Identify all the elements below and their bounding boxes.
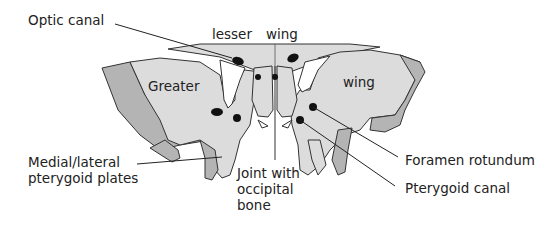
pterygoid-canal-left xyxy=(233,114,241,122)
label-pterygoid-canal: Pterygoid canal xyxy=(405,180,510,196)
label-foramen-rotundum: Foramen rotundum xyxy=(405,152,535,168)
label-joint-line3: bone xyxy=(237,197,300,213)
label-wing-right: wing xyxy=(343,74,375,90)
label-lesser: lesser xyxy=(212,26,252,42)
label-wing-top: wing xyxy=(266,26,298,42)
label-greater: Greater xyxy=(148,78,199,94)
sphenoid-body-right xyxy=(277,66,297,117)
foramen-rotundum-left xyxy=(211,108,223,116)
label-pterygoid-plates: Medial/lateral pterygoid plates xyxy=(28,154,138,186)
label-pterygoid-plates-line2: pterygoid plates xyxy=(28,170,138,186)
label-joint-occipital: Joint with occipital bone xyxy=(237,165,300,213)
label-joint-line2: occipital xyxy=(237,181,300,197)
sphenoid-body-left xyxy=(252,66,273,117)
label-pterygoid-plates-line1: Medial/lateral xyxy=(28,154,138,170)
label-optic-canal: Optic canal xyxy=(28,12,104,28)
label-joint-line1: Joint with xyxy=(237,165,300,181)
